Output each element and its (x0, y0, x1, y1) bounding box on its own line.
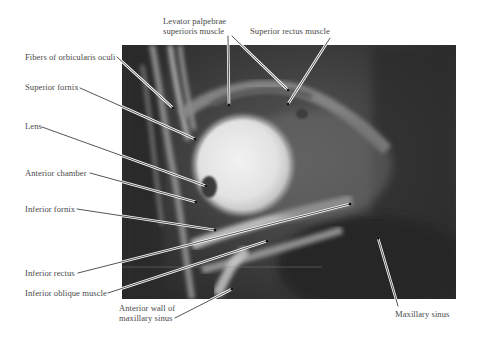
label-inferior-oblique: Inferior oblique muscle (25, 288, 107, 298)
label-anterior-wall-maxillary-sinus: Anterior wall of maxillary sinus (119, 303, 175, 323)
label-superior-fornix: Superior fornix (25, 82, 79, 92)
anatomy-figure: Levator palpebrae superioris muscle Supe… (0, 0, 479, 341)
label-orbicularis-oculi: Fibers of orbicularis oculi (25, 52, 115, 62)
label-lens: Lens (25, 121, 42, 131)
label-anterior-chamber: Anterior chamber (25, 168, 87, 178)
label-levator-palpebrae: Levator palpebrae superioris muscle (163, 16, 226, 36)
label-inferior-fornix: Inferior fornix (25, 204, 75, 214)
label-inferior-rectus: Inferior rectus (25, 268, 75, 278)
mri-image (122, 45, 456, 299)
mri-scan-graphic (122, 45, 456, 299)
label-maxillary-sinus: Maxillary sinus (395, 309, 449, 319)
label-superior-rectus: Superior rectus muscle (250, 26, 330, 36)
